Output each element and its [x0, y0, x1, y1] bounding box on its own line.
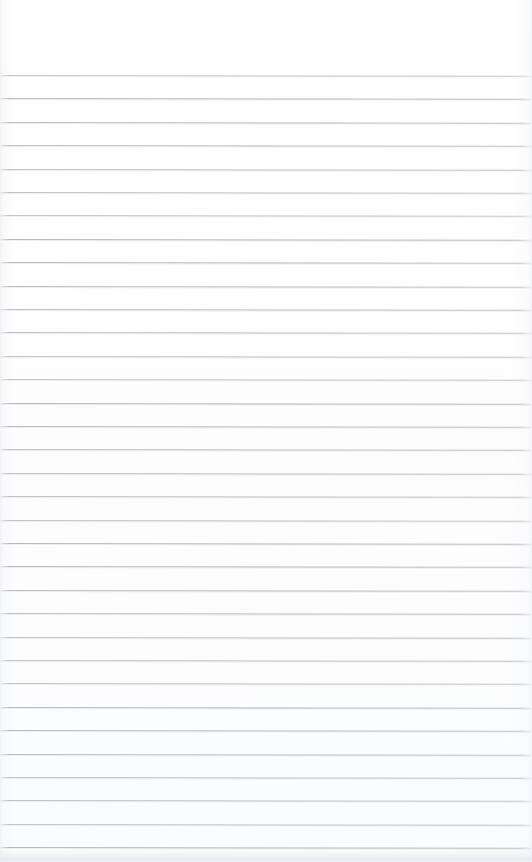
rule-line	[0, 777, 532, 779]
rule-line	[0, 426, 532, 428]
rule-line	[0, 262, 532, 264]
rule-line	[0, 824, 532, 826]
rule-line	[0, 800, 532, 802]
rule-line	[0, 75, 532, 77]
rule-line	[0, 637, 532, 639]
rule-line	[0, 122, 532, 124]
rule-line	[0, 496, 532, 498]
rule-line	[0, 169, 532, 171]
rule-line	[0, 309, 532, 311]
rule-line	[0, 590, 532, 592]
rule-line	[0, 660, 532, 662]
rule-line	[0, 473, 532, 475]
rule-line	[0, 754, 532, 756]
rule-line	[0, 145, 532, 147]
rule-line	[0, 379, 532, 381]
rule-line	[0, 730, 532, 732]
rule-line	[0, 449, 532, 451]
rule-line	[0, 98, 532, 100]
rule-line	[0, 566, 532, 568]
rule-line	[0, 239, 532, 241]
ruled-lines-layer	[0, 0, 532, 862]
rule-line	[0, 286, 532, 288]
rule-line	[0, 707, 532, 709]
rule-line	[0, 613, 532, 615]
rule-line	[0, 847, 532, 849]
rule-line	[0, 520, 532, 522]
rule-line	[0, 543, 532, 545]
rule-line	[0, 403, 532, 405]
rule-line	[0, 683, 532, 685]
rule-line	[0, 332, 532, 334]
rule-line	[0, 215, 532, 217]
rule-line	[0, 356, 532, 358]
rule-line	[0, 192, 532, 194]
scanned-page	[0, 0, 532, 862]
